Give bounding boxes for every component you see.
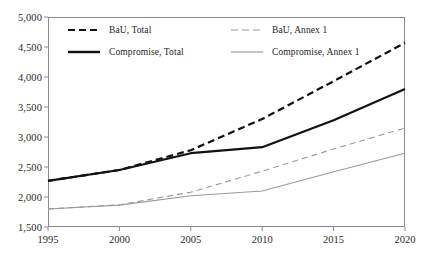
x-tick-label: 2000	[91, 234, 147, 245]
legend-swatch-bau-annex1	[231, 25, 263, 35]
x-tick-label: 1995	[20, 234, 76, 245]
x-tick-label: 2005	[163, 234, 219, 245]
y-tick-label: 5,000	[0, 12, 42, 23]
legend-label-compromise-total: Compromise, Total	[109, 47, 184, 57]
y-tick-label: 1,500	[0, 222, 42, 233]
y-tick-label: 3,000	[0, 132, 42, 143]
y-tick-label: 4,000	[0, 72, 42, 83]
legend-item-bau-total: BaU, Total	[68, 25, 151, 35]
legend-item-bau-annex1: BaU, Annex 1	[231, 25, 327, 35]
legend-swatch-compromise-total	[68, 47, 100, 57]
legend-label-compromise-annex1: Compromise, Annex 1	[272, 47, 360, 57]
data-line-bau-annex-1	[48, 128, 405, 209]
legend-item-compromise-total: Compromise, Total	[68, 47, 184, 57]
y-tick-label: 2,500	[0, 162, 42, 173]
y-tick-label: 4,500	[0, 42, 42, 53]
y-tick-label: 3,500	[0, 102, 42, 113]
line-chart: 1,5002,0002,5003,0003,5004,0004,5005,000…	[0, 0, 430, 264]
x-tick-label: 2015	[306, 234, 362, 245]
x-tick-label: 2020	[377, 234, 430, 245]
data-line-compromise-annex-1	[48, 153, 405, 209]
chart-legend: BaU, Total BaU, Annex 1 Compromise, Tota…	[68, 25, 368, 71]
legend-swatch-bau-total	[68, 25, 100, 35]
x-tick-label: 2010	[234, 234, 290, 245]
y-tick-label: 2,000	[0, 192, 42, 203]
legend-item-compromise-annex1: Compromise, Annex 1	[231, 47, 360, 57]
legend-swatch-compromise-annex1	[231, 47, 263, 57]
legend-label-bau-total: BaU, Total	[109, 25, 151, 35]
legend-label-bau-annex1: BaU, Annex 1	[272, 25, 327, 35]
